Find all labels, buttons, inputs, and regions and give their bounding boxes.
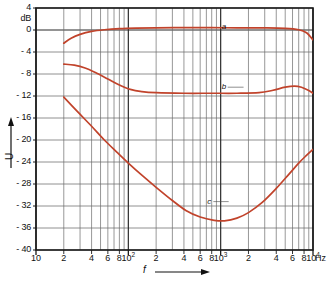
y-tick-label-m16: - 16 [0,112,31,122]
curve-label-c: c [207,197,211,206]
gridlines [36,8,313,250]
y-tick-label-m28: - 28 [0,178,31,188]
x-axis-title: f [143,264,146,275]
y-tick-label-4: 4 [0,2,31,12]
y-tick-label-m4: - 4 [0,46,31,56]
plot-border [36,8,313,250]
curve-c [64,97,313,221]
curve-b [64,64,313,93]
y-tick-label-m32: - 32 [0,200,31,210]
plot-frame [36,8,313,250]
data-curves [64,28,313,221]
y-axis-title: U [4,153,15,160]
y-tick-label-m36: - 36 [0,222,31,232]
y-axis-unit-label: dB [0,13,31,23]
y-tick-label-m20: - 20 [0,134,31,144]
y-tick-label-m8: - 8 [0,68,31,78]
y-tick-label-m12: - 12 [0,90,31,100]
curve-label-b: b [222,82,226,91]
axis-direction-arrows [8,117,210,275]
x-axis-unit-label: Hz [315,253,326,263]
curve-label-a: a [222,22,226,31]
x-axis-arrow-head [201,269,210,275]
figure-canvas: 4dB0- 4- 8- 12- 16- 20- 24- 28- 32- 36- … [0,0,333,287]
axis-ticks [33,8,313,255]
y-tick-label-0: 0 [0,24,31,34]
label-leader-lines [213,87,243,201]
chart-plot-area [0,0,333,287]
